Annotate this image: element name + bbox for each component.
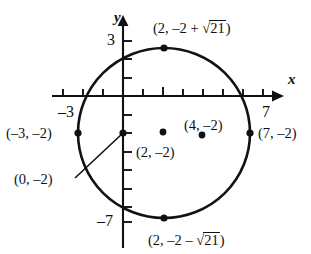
point-y-intercept bbox=[119, 129, 126, 136]
point-label-bottom-prefix: (2, –2 – bbox=[148, 232, 196, 248]
x-tick-label-7: 7 bbox=[262, 104, 270, 120]
radicand-top: 21 bbox=[209, 20, 226, 36]
circle-graph-figure: y x –3 7 3 –7 (2, –2 + √21) (2, –2 – √21… bbox=[0, 0, 311, 254]
y-axis-label: y bbox=[114, 10, 121, 25]
x-axis-ticks bbox=[63, 87, 263, 96]
point-bottom bbox=[160, 214, 167, 221]
point-left bbox=[74, 129, 81, 136]
point-label-y-intercept: (0, –2) bbox=[14, 172, 53, 187]
y-tick-label-neg7: –7 bbox=[97, 213, 113, 229]
x-tick-label-neg3: –3 bbox=[58, 104, 74, 120]
x-axis-label: x bbox=[288, 72, 296, 87]
point-label-inner: (4, –2) bbox=[184, 118, 223, 133]
point-label-left: (–3, –2) bbox=[6, 126, 52, 141]
radicand-bottom: 21 bbox=[203, 232, 220, 248]
point-label-bottom-suffix: ) bbox=[220, 232, 225, 248]
sqrt-symbol-top: √21 bbox=[202, 20, 225, 36]
point-label-top: (2, –2 + √21) bbox=[153, 20, 231, 36]
point-label-center: (2, –2) bbox=[136, 145, 175, 160]
sqrt-symbol-bottom: √21 bbox=[196, 232, 219, 248]
point-top bbox=[160, 44, 167, 51]
point-label-right: (7, –2) bbox=[258, 126, 297, 141]
y-tick-label-3: 3 bbox=[107, 32, 115, 48]
point-label-bottom: (2, –2 – √21) bbox=[148, 232, 225, 248]
point-center bbox=[160, 129, 167, 136]
point-right bbox=[246, 129, 253, 136]
point-label-top-prefix: (2, –2 + bbox=[153, 20, 202, 36]
point-label-top-suffix: ) bbox=[226, 20, 231, 36]
